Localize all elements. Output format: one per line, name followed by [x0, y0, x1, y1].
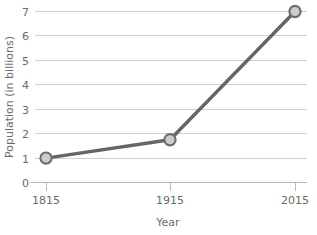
x-axis-title: Year — [155, 216, 180, 229]
y-tick-label-0: 0 — [22, 177, 29, 190]
x-tick-label-1815: 1815 — [32, 194, 60, 207]
y-tick-label-5: 5 — [22, 55, 29, 68]
y-tick-label-1: 1 — [22, 153, 29, 166]
x-tick-label-1915: 1915 — [156, 194, 184, 207]
y-axis-title: Population (in billions) — [3, 36, 16, 158]
y-axis-tick-labels: 7 6 5 4 3 2 1 0 — [22, 6, 29, 190]
data-point-1815 — [40, 152, 51, 163]
data-point-1915 — [164, 134, 175, 145]
y-tick-label-6: 6 — [22, 30, 29, 43]
line-chart-figure: 7 6 5 4 3 2 1 0 1815 1915 2015 Year Popu… — [0, 0, 317, 235]
x-axis-tick-labels: 1815 1915 2015 — [32, 194, 309, 207]
y-tick-label-4: 4 — [22, 79, 29, 92]
y-tick-label-7: 7 — [22, 6, 29, 19]
y-tick-label-2: 2 — [22, 128, 29, 141]
data-point-2015 — [289, 6, 300, 17]
x-axis-ticks — [47, 183, 296, 191]
chart-canvas: 7 6 5 4 3 2 1 0 1815 1915 2015 Year Popu… — [0, 0, 317, 235]
x-tick-label-2015: 2015 — [281, 194, 309, 207]
y-tick-label-3: 3 — [22, 104, 29, 117]
